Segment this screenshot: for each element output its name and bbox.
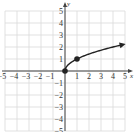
y-tick-label: 4 bbox=[59, 19, 63, 28]
x-axis-label: x bbox=[129, 72, 134, 80]
x-tick-label: −2 bbox=[34, 72, 43, 81]
x-tick-label: −1 bbox=[46, 72, 55, 81]
x-tick-label: −4 bbox=[10, 72, 19, 81]
data-point bbox=[62, 68, 68, 74]
x-tick-label: 4 bbox=[111, 72, 115, 81]
y-tick-label: 3 bbox=[59, 31, 63, 40]
x-tick-label: 3 bbox=[99, 72, 103, 81]
y-tick-label: −3 bbox=[54, 103, 63, 112]
x-tick-label: 1 bbox=[75, 72, 79, 81]
y-tick-label: 1 bbox=[59, 55, 63, 64]
x-tick-label: 2 bbox=[87, 72, 91, 81]
y-tick-label: 5 bbox=[59, 7, 63, 16]
coordinate-plane: y x −5−4−3−2−11234554321−1−2−3−4−5 bbox=[0, 0, 136, 132]
y-tick-label: −1 bbox=[54, 79, 63, 88]
x-tick-label: 5 bbox=[123, 72, 127, 81]
data-point bbox=[74, 56, 80, 62]
y-tick-label: −4 bbox=[54, 115, 63, 124]
y-tick-label: −2 bbox=[54, 91, 63, 100]
y-axis-label: y bbox=[66, 0, 71, 8]
x-tick-label: −5 bbox=[0, 72, 6, 81]
y-tick-label: 2 bbox=[59, 43, 63, 52]
y-tick-label: −5 bbox=[54, 127, 63, 132]
sqrt-curve bbox=[65, 45, 123, 71]
x-tick-label: −3 bbox=[22, 72, 31, 81]
